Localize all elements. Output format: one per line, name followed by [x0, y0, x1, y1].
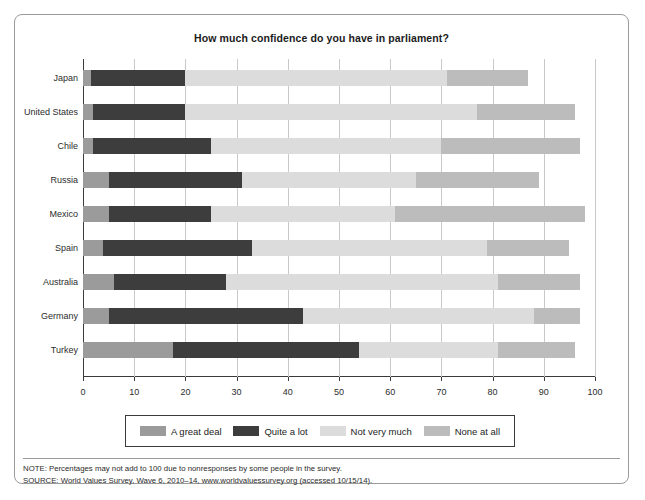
bar-segment[interactable] [83, 206, 109, 222]
bar-row[interactable]: Japan [83, 61, 595, 95]
bar-row[interactable]: Spain [83, 231, 595, 265]
y-axis-label: Spain [55, 243, 78, 253]
chart-title: How much confidence do you have in parli… [15, 32, 628, 44]
stacked-bar[interactable] [83, 274, 595, 290]
x-tick-label: 20 [180, 387, 190, 397]
bar-segment[interactable] [498, 274, 580, 290]
bar-segment[interactable] [83, 240, 103, 256]
bar-segment[interactable] [487, 240, 569, 256]
bar-row[interactable]: Mexico [83, 197, 595, 231]
note-text: NOTE: Percentages may not add to 100 due… [23, 463, 620, 475]
x-tick-label: 90 [539, 387, 549, 397]
bar-segment[interactable] [83, 274, 114, 290]
legend-swatch [320, 426, 346, 436]
x-tick-mark [441, 377, 442, 381]
bar-segment[interactable] [498, 342, 575, 358]
stacked-bar[interactable] [83, 206, 595, 222]
bar-segment[interactable] [477, 104, 574, 120]
x-tick-mark [185, 377, 186, 381]
y-axis-label: Mexico [49, 209, 78, 219]
x-tick-mark [134, 377, 135, 381]
stacked-bar[interactable] [83, 342, 595, 358]
legend-swatch [424, 426, 450, 436]
bar-segment[interactable] [211, 138, 441, 154]
bar-segment[interactable] [103, 240, 251, 256]
bar-segment[interactable] [83, 342, 173, 358]
bar-segment[interactable] [252, 240, 488, 256]
x-tick-label: 50 [334, 387, 344, 397]
bar-segment[interactable] [83, 138, 93, 154]
legend-swatch [140, 426, 166, 436]
bar-segment[interactable] [395, 206, 584, 222]
bar-segment[interactable] [91, 70, 186, 86]
bar-segment[interactable] [83, 70, 91, 86]
y-axis-label: Russia [50, 175, 78, 185]
bar-segment[interactable] [83, 172, 109, 188]
bar-segment[interactable] [83, 308, 109, 324]
source-text: SOURCE: World Values Survey, Wave 6, 201… [23, 475, 620, 487]
x-tick-label: 70 [436, 387, 446, 397]
stacked-bar[interactable] [83, 240, 595, 256]
bar-segment[interactable] [114, 274, 227, 290]
x-tick-label: 10 [129, 387, 139, 397]
legend-label: Not very much [351, 426, 412, 437]
y-axis-label: Japan [53, 73, 78, 83]
x-tick-mark [595, 377, 596, 381]
stacked-bar[interactable] [83, 172, 595, 188]
bar-segment[interactable] [441, 138, 579, 154]
x-tick-mark [237, 377, 238, 381]
legend-item[interactable]: None at all [424, 426, 500, 437]
bar-row[interactable]: Chile [83, 129, 595, 163]
x-tick-label: 60 [385, 387, 395, 397]
bar-segment[interactable] [226, 274, 497, 290]
bar-row[interactable]: Australia [83, 265, 595, 299]
x-tick-label: 40 [283, 387, 293, 397]
x-tick-mark [544, 377, 545, 381]
bar-segment[interactable] [185, 104, 477, 120]
bar-segment[interactable] [242, 172, 416, 188]
bar-segment[interactable] [93, 138, 211, 154]
x-tick-mark [83, 377, 84, 381]
bar-segment[interactable] [359, 342, 497, 358]
bar-row[interactable]: Russia [83, 163, 595, 197]
y-axis-label: Germany [41, 311, 78, 321]
bar-segment[interactable] [303, 308, 533, 324]
y-axis-label: Chile [57, 141, 78, 151]
stacked-bar[interactable] [83, 138, 595, 154]
bar-segment[interactable] [83, 104, 93, 120]
bar-segment[interactable] [447, 70, 529, 86]
bar-segment[interactable] [534, 308, 580, 324]
legend-item[interactable]: A great deal [140, 426, 222, 437]
x-tick-mark [288, 377, 289, 381]
y-axis-label: Turkey [51, 345, 78, 355]
gridline [595, 59, 596, 377]
bar-segment[interactable] [185, 70, 446, 86]
bar-row[interactable]: Turkey [83, 333, 595, 367]
legend-label: A great deal [171, 426, 222, 437]
legend-swatch [233, 426, 259, 436]
bar-segment[interactable] [211, 206, 395, 222]
bar-segment[interactable] [173, 342, 360, 358]
bar-segment[interactable] [109, 206, 211, 222]
legend-item[interactable]: Not very much [320, 426, 412, 437]
stacked-bar[interactable] [83, 308, 595, 324]
bar-segment[interactable] [109, 172, 242, 188]
chart-legend: A great dealQuite a lotNot very muchNone… [125, 415, 515, 447]
y-axis-label: Australia [43, 277, 78, 287]
stacked-bar[interactable] [83, 70, 595, 86]
legend-item[interactable]: Quite a lot [233, 426, 307, 437]
x-tick-mark [390, 377, 391, 381]
chart-figure: How much confidence do you have in parli… [14, 14, 629, 484]
legend-label: None at all [455, 426, 500, 437]
x-tick-label: 100 [587, 387, 602, 397]
legend-label: Quite a lot [264, 426, 307, 437]
bar-row[interactable]: United States [83, 95, 595, 129]
bar-row[interactable]: Germany [83, 299, 595, 333]
footnotes: NOTE: Percentages may not add to 100 due… [23, 458, 620, 486]
bar-segment[interactable] [416, 172, 539, 188]
bar-segment[interactable] [93, 104, 185, 120]
stacked-bar[interactable] [83, 104, 595, 120]
x-tick-mark [493, 377, 494, 381]
bar-segment[interactable] [109, 308, 304, 324]
plot-area: 0102030405060708090100 JapanUnited State… [83, 59, 595, 377]
